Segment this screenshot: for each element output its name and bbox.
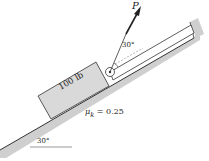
mu-value: = 0.25 — [94, 107, 124, 116]
force-angle-label: 30° — [122, 42, 134, 49]
diagram-canvas: P 30° 100 lb μk = 0.25 30° — [0, 0, 209, 161]
guide-rail — [110, 25, 194, 80]
incline-angle-label: 30° — [37, 138, 49, 145]
force-label: P — [132, 1, 139, 11]
friction-coefficient-label: μk = 0.25 — [85, 108, 124, 118]
